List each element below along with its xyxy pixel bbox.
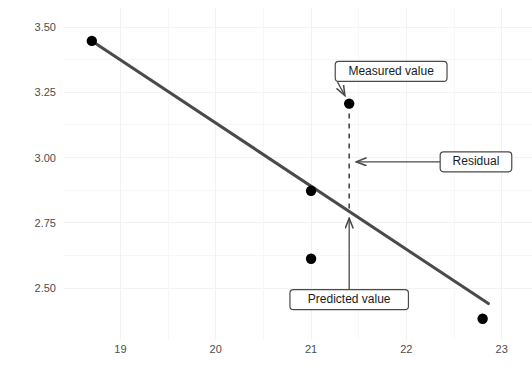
y-axis-tick-label: 3.50 (35, 21, 56, 33)
annotation-predicted-value: Predicted value (290, 290, 409, 310)
x-axis-tick-label: 23 (496, 343, 508, 355)
x-axis-tick-label: 21 (305, 343, 317, 355)
data-point (477, 314, 487, 324)
x-axis-tick-label: 19 (114, 343, 126, 355)
regression-residual-chart: 2.502.753.003.253.50 1920212223 Measured… (0, 0, 532, 380)
annotation-callouts-layer: Measured valueResidualPredicted value (290, 61, 512, 309)
data-point (306, 186, 316, 196)
annotation-residual: Residual (440, 152, 512, 172)
data-point (344, 98, 354, 108)
annotation-label-residual: Residual (453, 154, 500, 168)
plot-area: 2.502.753.003.253.50 1920212223 Measured… (0, 0, 532, 380)
annotation-measured-value: Measured value (335, 61, 447, 81)
y-axis-tick-labels: 2.502.753.003.253.50 (35, 21, 56, 294)
annotation-connector-layer (337, 81, 440, 289)
annotation-label-measured-value: Measured value (348, 64, 434, 78)
data-point (306, 254, 316, 264)
annotation-connector-measured-value (337, 81, 345, 95)
y-axis-tick-label: 3.25 (35, 86, 56, 98)
annotation-label-predicted-value: Predicted value (308, 292, 391, 306)
y-axis-tick-label: 3.00 (35, 152, 56, 164)
x-axis-tick-label: 20 (210, 343, 222, 355)
x-axis-tick-label: 22 (400, 343, 412, 355)
x-axis-tick-labels: 1920212223 (114, 343, 508, 355)
y-axis-tick-label: 2.50 (35, 282, 56, 294)
y-axis-tick-label: 2.75 (35, 217, 56, 229)
data-point (87, 36, 97, 46)
